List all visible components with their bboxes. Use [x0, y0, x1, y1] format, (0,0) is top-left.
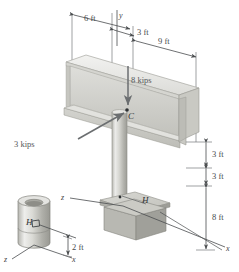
axis-label-y: y [119, 12, 123, 20]
load-label-3kips: 3 kips [14, 140, 35, 149]
axis-label-z-inset: z [4, 256, 7, 264]
dimension-label-3ft-lower: 3 ft [212, 172, 224, 181]
support-column [112, 110, 127, 208]
dimension-label-3ft-upper: 3 ft [212, 150, 224, 159]
dimension-label-8ft: 8 ft [212, 213, 224, 222]
dimension-label-9ft: 9 ft [158, 37, 170, 46]
tube-detail-inset [18, 196, 50, 249]
load-label-8kips: 8 kips [131, 76, 152, 85]
axis-label-x-main: x [226, 245, 230, 253]
axis-label-x-inset: x [72, 256, 76, 264]
engineering-diagram: 6 ft y 3 ft 9 ft 8 kips C 3 kips 3 ft 3 … [0, 0, 239, 272]
dimension-2ft-lines [63, 236, 72, 257]
point-label-h-inset: H [26, 218, 33, 227]
dimension-label-2ft: 2 ft [72, 243, 84, 252]
axis-label-z-main: z [61, 194, 64, 202]
wide-flange-beam [64, 55, 199, 148]
point-label-h-main: H [142, 196, 149, 205]
base-pedestal [100, 192, 170, 240]
diagram-canvas [0, 0, 239, 272]
dimension-label-6ft: 6 ft [84, 14, 96, 23]
point-h-marker [119, 196, 122, 199]
dimension-label-3ft-top: 3 ft [137, 28, 149, 37]
point-label-c: C [128, 112, 134, 121]
right-dimension-lines [186, 142, 215, 250]
